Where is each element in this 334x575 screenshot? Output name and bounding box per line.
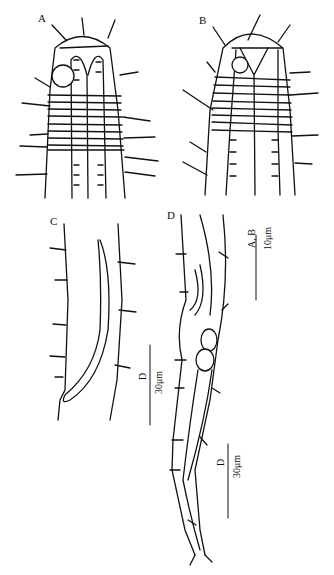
scale-bars [150,235,256,518]
panel-b-drawing [183,15,318,195]
panel-d-drawing [170,215,228,565]
nematode-drawing [0,0,334,575]
panel-a-drawing [16,18,158,198]
panel-c-drawing [50,224,136,420]
